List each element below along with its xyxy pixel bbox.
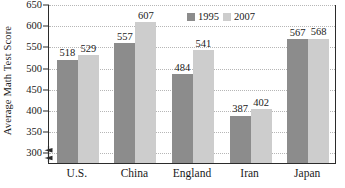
y-axis-tick-label: 550 — [14, 42, 42, 53]
y-axis-tick-label: 500 — [14, 63, 42, 74]
bar: 484 — [172, 74, 193, 163]
y-axis-tick-label: 300 — [14, 148, 42, 159]
bar-value-label: 567 — [290, 28, 306, 39]
x-axis-tick-label: Iran — [240, 168, 259, 180]
legend-swatch-1995 — [187, 13, 195, 21]
y-axis-tick-label: 600 — [14, 21, 42, 32]
bar-value-label: 518 — [59, 48, 75, 59]
legend-swatch-2007 — [223, 13, 231, 21]
bar-group: 557607 — [107, 5, 165, 163]
bar-group: 484541 — [164, 5, 222, 163]
y-axis-title-text: Average Math Test Score — [3, 25, 14, 134]
bar: 529 — [78, 55, 99, 163]
legend-label-1995: 1995 — [198, 12, 219, 23]
x-axis-tick-label: Japan — [294, 168, 320, 180]
bar: 567 — [287, 39, 308, 163]
bar: 557 — [114, 43, 135, 163]
x-axis-tick-labels: U.S.ChinaEnglandIranJapan — [48, 168, 336, 186]
bar-value-label: 387 — [232, 104, 248, 115]
y-axis-tick-labels: 300350400450500550600650 — [14, 0, 42, 157]
bar: 518 — [57, 60, 78, 163]
axis-break-icon — [42, 146, 55, 162]
bar: 402 — [251, 109, 272, 163]
bar-value-label: 402 — [253, 98, 269, 109]
legend-entry-2007: 2007 — [223, 12, 255, 23]
y-axis-tick-label: 450 — [14, 85, 42, 96]
y-axis-tick-label: 400 — [14, 106, 42, 117]
bar: 541 — [193, 50, 214, 163]
y-axis-tick-label: 650 — [14, 0, 42, 10]
bar-value-label: 541 — [196, 39, 212, 50]
bar-group: 567568 — [279, 5, 337, 163]
bar-group: 518529 — [49, 5, 107, 163]
bar-value-label: 607 — [138, 11, 154, 22]
x-axis-tick-label: U.S. — [67, 168, 87, 180]
bar: 387 — [230, 116, 251, 163]
plot-area: 518529557607484541387402567568 1995 2007 — [48, 5, 336, 164]
bar-value-label: 557 — [117, 32, 133, 43]
bar-value-label: 568 — [311, 27, 327, 38]
bar: 607 — [135, 22, 156, 163]
y-axis-tick-label: 350 — [14, 127, 42, 138]
bar: 568 — [308, 39, 329, 163]
bars-layer: 518529557607484541387402567568 — [49, 5, 335, 163]
legend-entry-1995: 1995 — [187, 12, 219, 23]
x-axis-tick-label: England — [173, 168, 211, 180]
legend-label-2007: 2007 — [234, 12, 255, 23]
bar-group: 387402 — [222, 5, 280, 163]
legend: 1995 2007 — [187, 12, 255, 23]
bar-value-label: 529 — [80, 44, 96, 55]
x-axis-tick-label: China — [121, 168, 148, 180]
bar-value-label: 484 — [175, 63, 191, 74]
bar-chart: Average Math Test Score 3003504004505005… — [0, 0, 345, 188]
